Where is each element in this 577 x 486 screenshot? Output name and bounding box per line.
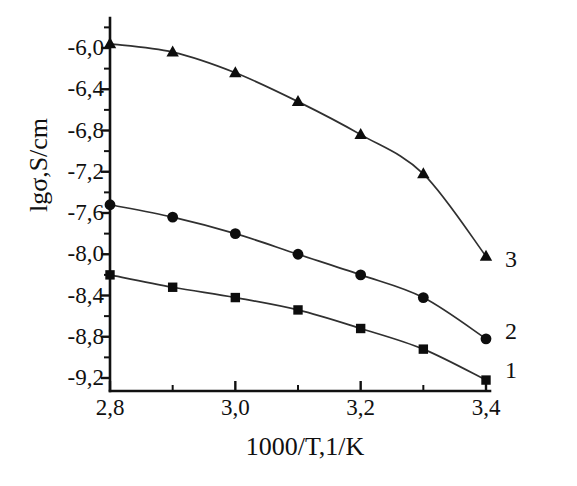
series-1 (105, 270, 490, 385)
series-3 (104, 37, 492, 260)
series-line-1 (110, 275, 486, 380)
chart-figure: lgσ,S/cm 1000/T,1/K -6,0-6,4-6,8-7,2-7,6… (0, 0, 577, 486)
series-line-2 (110, 205, 486, 339)
data-point-circle (105, 199, 116, 210)
data-point-square (231, 293, 240, 302)
data-point-triangle (292, 95, 304, 106)
data-point-circle (293, 249, 304, 260)
data-point-square (356, 324, 365, 333)
data-point-square (105, 270, 114, 279)
data-point-square (419, 344, 428, 353)
data-point-circle (355, 269, 366, 280)
series-label-3: 3 (505, 247, 517, 271)
series-2 (105, 199, 492, 344)
series-label-2: 2 (505, 319, 517, 343)
data-point-square (168, 283, 177, 292)
data-point-circle (481, 333, 492, 344)
data-point-circle (230, 228, 241, 239)
data-point-circle (167, 212, 178, 223)
data-point-triangle (354, 128, 366, 139)
data-point-circle (418, 292, 429, 303)
plot-canvas (0, 0, 577, 486)
data-point-square (293, 305, 302, 314)
series-line-3 (110, 44, 486, 256)
series-label-1: 1 (505, 358, 517, 382)
data-point-square (481, 375, 490, 384)
data-point-triangle (104, 37, 116, 48)
